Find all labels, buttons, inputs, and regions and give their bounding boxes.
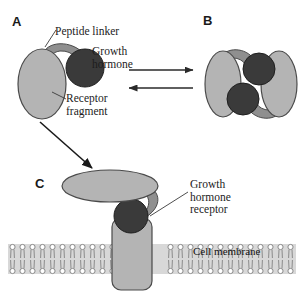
label-growth-hormone-receptor: Growth hormone receptor	[190, 178, 231, 216]
panel-label-c: C	[35, 176, 44, 191]
panel-c-graphic	[8, 170, 296, 290]
receptor-fragment-shape-c	[62, 170, 158, 202]
arrow-a-to-c	[40, 122, 92, 168]
panel-label-b: B	[203, 13, 212, 28]
label-cell-membrane: Cell membrane	[193, 245, 261, 258]
receptor-fragment-shape-a	[18, 49, 66, 119]
figure-growth-hormone-receptor: A B C Peptide linker Growth hormone Rece…	[0, 0, 304, 296]
label-receptor-fragment: Receptor fragment	[66, 92, 108, 117]
panel-b-graphic	[205, 50, 297, 118]
label-growth-hormone: Growth hormone	[92, 45, 133, 70]
label-peptide-linker: Peptide linker	[55, 25, 119, 38]
growth-hormone-shape-c	[114, 199, 148, 233]
panel-label-a: A	[12, 14, 21, 29]
growth-hormone-shape-b-upper	[243, 53, 275, 85]
equilibrium-arrows	[129, 70, 193, 88]
growth-hormone-shape-b-lower	[227, 83, 259, 115]
